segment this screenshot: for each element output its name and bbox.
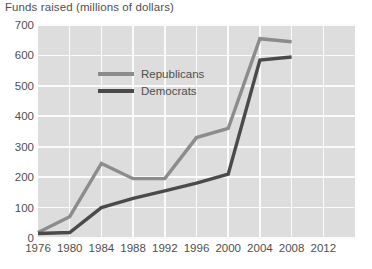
x-axis-tick-label: 2000	[215, 242, 241, 254]
x-axis-tick-label: 2008	[279, 242, 305, 254]
legend-item-label: Democrats	[141, 85, 197, 97]
y-axis-tick-label: 200	[0, 171, 34, 183]
legend-item[interactable]: Republicans	[98, 68, 204, 80]
y-axis-tick-label: 400	[0, 110, 34, 122]
x-axis-tick-label: 1980	[57, 242, 83, 254]
series-lines	[38, 25, 355, 238]
republicans-line-swatch	[98, 72, 134, 76]
x-axis-tick-labels: 1976198019841988199219962000200420082012	[38, 242, 355, 262]
democrats-line-swatch	[98, 89, 134, 93]
x-axis-tick-label: 1984	[89, 242, 115, 254]
y-axis-tick-label: 500	[0, 80, 34, 92]
x-axis-tick-label: 1992	[152, 242, 178, 254]
chart-title: Funds raised (millions of dollars)	[5, 1, 174, 13]
plot-area: RepublicansDemocrats	[38, 25, 355, 238]
y-axis-tick-labels: 0100200300400500600700	[0, 25, 34, 238]
y-axis-tick-label: 700	[0, 19, 34, 31]
y-axis-tick-label: 300	[0, 141, 34, 153]
legend-item[interactable]: Democrats	[98, 85, 204, 97]
y-axis-tick-label: 100	[0, 202, 34, 214]
x-axis-tick-label: 2012	[311, 242, 337, 254]
x-axis-tick-label: 2004	[247, 242, 273, 254]
funds-raised-line-chart: Funds raised (millions of dollars) 01002…	[0, 0, 372, 269]
x-axis-tick-label: 1976	[25, 242, 51, 254]
y-axis-tick-label: 600	[0, 49, 34, 61]
x-axis-tick-label: 1996	[184, 242, 210, 254]
chart-legend: RepublicansDemocrats	[98, 68, 204, 97]
x-axis-tick-label: 1988	[120, 242, 146, 254]
legend-item-label: Republicans	[141, 68, 204, 80]
